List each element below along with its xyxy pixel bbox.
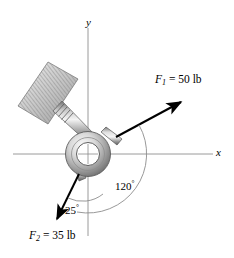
force-label-f1: F1 = 50 lb <box>155 74 202 86</box>
force-f2-symbol: F <box>29 229 36 241</box>
y-axis-label: y <box>86 17 91 28</box>
force-f2-subscript: 2 <box>36 234 40 243</box>
force-f2-magnitude: 35 <box>52 229 64 241</box>
diagram-canvas <box>0 0 234 258</box>
angle-label-25: 25° <box>65 205 79 216</box>
angle-label-120: 120° <box>115 181 135 192</box>
x-axis-label: x <box>216 147 221 158</box>
force-label-f2: F2 = 35 lb <box>29 230 76 242</box>
angle-120-degree-icon: ° <box>132 179 135 188</box>
force-f2-equals: = <box>43 229 50 241</box>
force-f1-unit: lb <box>193 73 202 85</box>
angle-arc-25 <box>68 194 103 201</box>
angle-120-value: 120 <box>115 180 132 192</box>
force-f1-equals: = <box>169 73 176 85</box>
eyebolt-ring <box>66 132 111 177</box>
force-f1-magnitude: 50 <box>178 73 190 85</box>
force-arrow-f1 <box>116 102 181 137</box>
angle-25-value: 25 <box>65 204 76 216</box>
angle-25-degree-icon: ° <box>76 203 79 212</box>
force-f1-symbol: F <box>155 73 162 85</box>
force-f2-unit: lb <box>67 229 76 241</box>
force-f1-subscript: 1 <box>162 78 166 87</box>
force-diagram-figure: y x F1 = 50 lb F2 = 35 lb 120° 25° <box>0 0 234 258</box>
